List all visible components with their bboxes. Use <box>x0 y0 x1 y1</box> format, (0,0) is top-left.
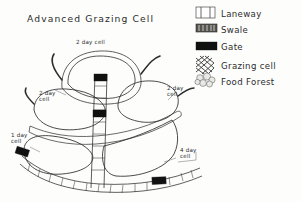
legend-label-gate: Gate <box>221 42 243 52</box>
legend: Laneway Swale Gate Grazing cell <box>0 0 302 202</box>
legend-label-swale: Swale <box>221 25 248 35</box>
legend-row-food-forest: Food Forest <box>195 73 275 87</box>
laneway-icon <box>196 7 215 18</box>
legend-label-food-forest: Food Forest <box>221 77 275 87</box>
legend-row-gate: Gate <box>196 42 243 52</box>
gate-icon <box>196 42 217 50</box>
legend-label-laneway: Laneway <box>221 9 262 19</box>
legend-row-swale: Swale <box>196 24 248 35</box>
grazing-cell-icon <box>196 56 214 74</box>
legend-label-grazing-cell: Grazing cell <box>221 61 276 71</box>
food-forest-icon <box>195 73 215 87</box>
diagram-page: Advanced Grazing Cell 2 day cell 2 day c… <box>0 0 302 202</box>
legend-row-grazing-cell: Grazing cell <box>196 56 276 74</box>
legend-row-laneway: Laneway <box>196 7 262 19</box>
swale-icon <box>196 24 217 32</box>
